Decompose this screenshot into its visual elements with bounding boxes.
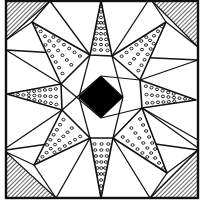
star-point-e: [140, 80, 196, 108]
hatched-corner-top-right: [152, 1, 198, 47]
star-point-w: [7, 84, 62, 110]
quilt-block-svg: [0, 0, 203, 208]
star-point-sw: [34, 110, 90, 165]
star-point-outline: [90, 1, 112, 56]
inner-seam-line: [101, 76, 140, 80]
star-point-s: [90, 138, 113, 198]
seam-line: [140, 60, 198, 80]
star-point-outline: [112, 22, 166, 80]
star-point-n: [90, 1, 112, 56]
center-diamond-group: [79, 76, 123, 118]
star-point-nw: [32, 22, 90, 84]
star-point-ne: [112, 22, 166, 80]
star-point-outline: [90, 138, 113, 198]
quilt-block-diagram: [0, 0, 203, 208]
hatched-corner-bottom-left: [6, 152, 56, 198]
center-diamond: [79, 76, 123, 118]
